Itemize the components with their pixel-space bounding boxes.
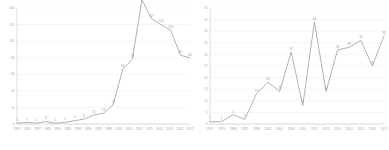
data-point-label: 11: [92, 110, 95, 114]
left-chart-svg: 020406080100120140 193219351937196019651…: [0, 0, 195, 150]
x-tick-label: 1990: [85, 127, 92, 131]
y-tick-label: 30: [204, 53, 208, 57]
data-point-label: 1: [35, 118, 37, 122]
y-tick-label: 100: [9, 39, 14, 43]
x-tick-label: 2013: [334, 127, 341, 131]
left-xtick-labels: 1932193519371960196519801985199019951998…: [14, 127, 194, 131]
data-point-label: 38: [382, 31, 386, 35]
left-series-path: [17, 0, 190, 123]
data-point-label: 32: [336, 45, 340, 49]
x-tick-label: 1980: [64, 127, 71, 131]
y-tick-label: 20: [11, 106, 15, 110]
chart-panel-left: 020406080100120140 193219351937196019651…: [0, 0, 195, 150]
data-point-label: 13: [102, 108, 106, 112]
data-point-label: 113: [168, 25, 173, 29]
x-tick-label: 1935: [24, 127, 31, 131]
x-tick-label: 1995: [95, 127, 102, 131]
x-tick-label: 1979: [218, 127, 225, 131]
x-tick-label: 2017: [381, 127, 388, 131]
data-point-label: 66: [121, 64, 125, 68]
x-tick-label: 1960: [44, 127, 51, 131]
y-tick-label: 10: [204, 99, 208, 103]
x-tick-label: 2010: [136, 127, 143, 131]
left-point-labels: 1213124611132366781501271201138380: [16, 0, 192, 122]
x-tick-label: 2013: [166, 127, 173, 131]
y-tick-label: 25: [204, 64, 208, 68]
data-point-label: 14: [324, 86, 328, 90]
data-point-label: 44: [313, 17, 317, 21]
data-point-label: 3: [45, 116, 47, 120]
x-tick-label: 1937: [34, 127, 41, 131]
right-point-labels: 114213181431844143233362538: [209, 17, 386, 121]
data-point-label: 78: [131, 54, 135, 58]
data-point-label: 83: [179, 50, 183, 54]
x-tick-label: 2012: [156, 127, 163, 131]
x-tick-label: 2004: [276, 127, 283, 131]
x-tick-label: 2006: [288, 127, 295, 131]
y-tick-label: 50: [204, 6, 208, 10]
y-tick-label: 35: [204, 41, 208, 45]
data-point-label: 31: [290, 47, 294, 51]
data-point-label: 18: [266, 77, 270, 81]
data-point-label: 23: [111, 100, 115, 104]
x-tick-label: 2005: [125, 127, 132, 131]
x-tick-label: 2017: [187, 127, 194, 131]
y-tick-label: 15: [204, 87, 208, 91]
x-tick-label: 1967: [207, 127, 214, 131]
data-point-label: 25: [371, 61, 375, 65]
data-point-label: 6: [83, 114, 85, 118]
x-tick-label: 2010: [299, 127, 306, 131]
data-point-label: 80: [188, 53, 192, 57]
left-gridlines: [17, 8, 190, 124]
x-tick-label: 2014: [176, 127, 183, 131]
y-tick-label: 5: [206, 111, 208, 115]
y-tick-label: 80: [11, 56, 15, 60]
y-tick-label: 20: [204, 76, 208, 80]
data-point-label: 1: [55, 118, 57, 122]
dual-line-chart-figure: 020406080100120140 193219351937196019651…: [0, 0, 389, 150]
x-tick-label: 1998: [105, 127, 112, 131]
x-tick-label: 2011: [146, 127, 153, 131]
data-point-label: 2: [26, 117, 28, 121]
x-tick-label: 1986: [230, 127, 237, 131]
right-gridlines: [210, 8, 384, 124]
y-tick-label: 40: [11, 89, 15, 93]
x-tick-label: 1998: [253, 127, 260, 131]
data-point-label: 14: [278, 86, 282, 90]
data-point-label: 2: [64, 117, 66, 121]
data-point-label: 4: [74, 115, 76, 119]
y-tick-label: 40: [204, 29, 208, 33]
right-xtick-labels: 1967197919861992199820012004200620102011…: [207, 127, 388, 131]
x-tick-label: 2001: [265, 127, 272, 131]
left-axes: [17, 8, 190, 124]
x-tick-label: 1965: [54, 127, 61, 131]
left-ytick-labels: 020406080100120140: [9, 6, 14, 126]
x-tick-label: 1992: [241, 127, 248, 131]
x-tick-label: 1932: [14, 127, 21, 131]
right-chart-svg: 05101520253035404550 1967197919861992199…: [195, 0, 389, 150]
x-tick-label: 2000: [115, 127, 122, 131]
series-line-series-1: [210, 22, 384, 122]
y-tick-label: 45: [204, 18, 208, 22]
data-point-label: 1: [16, 118, 18, 122]
right-ytick-labels: 05101520253035404550: [204, 6, 208, 126]
y-tick-label: 140: [9, 6, 14, 10]
data-point-label: 1: [221, 116, 223, 120]
y-tick-label: 120: [9, 23, 14, 27]
x-tick-label: 2012: [323, 127, 330, 131]
data-point-label: 4: [232, 110, 234, 114]
data-point-label: 33: [348, 42, 352, 46]
data-point-label: 13: [255, 89, 259, 93]
x-tick-label: 2015: [357, 127, 364, 131]
y-tick-label: 60: [11, 72, 15, 76]
x-tick-label: 1985: [75, 127, 82, 131]
chart-panel-right: 05101520253035404550 1967197919861992199…: [195, 0, 389, 150]
right-series-path: [210, 22, 384, 122]
x-tick-label: 2014: [346, 127, 353, 131]
x-tick-label: 2016: [369, 127, 376, 131]
series-line-series-1: [17, 0, 190, 123]
data-point-label: 127: [149, 14, 154, 18]
x-tick-label: 2011: [311, 127, 318, 131]
data-point-label: 36: [359, 35, 363, 39]
data-point-label: 1: [209, 116, 211, 120]
